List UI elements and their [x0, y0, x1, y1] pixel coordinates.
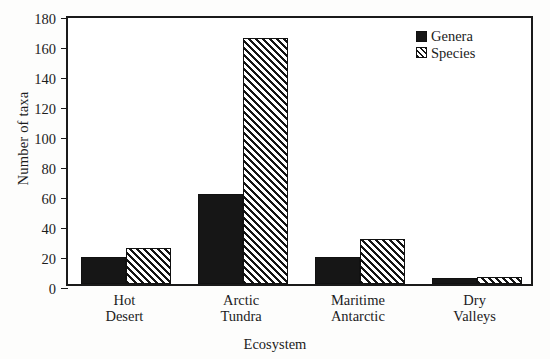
x-axis-title: Ecosystem [0, 336, 550, 353]
y-axis-tick-label: 80 [42, 161, 57, 178]
bar-group [315, 18, 405, 284]
bar-species-0 [126, 248, 171, 284]
bar-genera-1 [198, 194, 243, 284]
legend-label: Genera [431, 29, 473, 44]
x-axis-label-line: Hot [105, 292, 143, 308]
y-axis-tick-label: 120 [34, 101, 56, 118]
legend-label: Species [431, 46, 475, 61]
x-axis-label-line: Maritime [331, 292, 385, 308]
y-axis-tick-label: 180 [34, 11, 56, 28]
y-axis-tick: 60 [61, 198, 68, 199]
x-axis-label-line: Tundra [220, 308, 261, 324]
y-axis-tick: 20 [61, 258, 68, 259]
bar-genera-0 [81, 257, 126, 284]
y-axis-tick: 160 [61, 48, 68, 49]
legend-swatch-genera-icon [416, 31, 427, 42]
bar-group [81, 18, 171, 284]
legend-item-genera: Genera [416, 29, 475, 44]
y-axis-tick: 40 [61, 228, 68, 229]
y-axis-tick-label: 60 [42, 191, 57, 208]
y-axis-tick: 100 [61, 138, 68, 139]
bar-genera-3 [432, 278, 477, 284]
y-axis-tick: 0 [61, 288, 68, 289]
y-axis-tick-label: 160 [34, 41, 56, 58]
bar-species-3 [477, 277, 522, 285]
x-axis-label-line: Arctic [220, 292, 261, 308]
x-axis-label-line: Antarctic [331, 308, 385, 324]
y-axis-tick: 120 [61, 108, 68, 109]
y-axis-tick: 80 [61, 168, 68, 169]
plot-area: 020406080100120140160180 GeneraSpecies [66, 16, 533, 286]
x-axis-label-line: Valleys [453, 308, 496, 324]
bar-chart-figure: Number of taxa 020406080100120140160180 … [0, 0, 550, 359]
y-axis-title: Number of taxa [15, 54, 32, 224]
y-axis-tick: 180 [61, 18, 68, 19]
y-axis-tick: 140 [61, 78, 68, 79]
legend-item-species: Species [416, 46, 475, 61]
x-axis-label-0: HotDesert [105, 292, 143, 325]
x-axis-label-2: MaritimeAntarctic [331, 292, 385, 325]
y-axis-tick-label: 40 [42, 221, 57, 238]
y-axis-tick-label: 20 [42, 251, 57, 268]
y-axis-tick-label: 100 [34, 131, 56, 148]
x-axis-label-3: DryValleys [453, 292, 496, 325]
bar-genera-2 [315, 257, 360, 284]
x-axis-label-1: ArcticTundra [220, 292, 261, 325]
x-axis-label-line: Desert [105, 308, 143, 324]
bar-group [198, 18, 288, 284]
y-axis-tick-label: 0 [49, 281, 56, 298]
x-axis-label-line: Dry [453, 292, 496, 308]
bar-species-2 [360, 239, 405, 284]
chart-legend: GeneraSpecies [416, 29, 475, 60]
y-axis-tick-label: 140 [34, 71, 56, 88]
bar-species-1 [243, 38, 288, 284]
legend-swatch-species-icon [416, 47, 427, 58]
